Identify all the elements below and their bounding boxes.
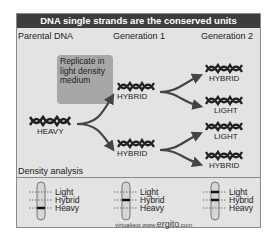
dna-helix-icon <box>206 121 242 132</box>
molecule-label: HYBRID <box>209 74 239 83</box>
molecule-label: HYBRID <box>117 92 147 101</box>
molecule-label: HEAVY <box>37 127 64 136</box>
diagram-frame: DNA single strands are the conserved uni… <box>16 13 261 228</box>
dna-helix-icon <box>118 138 154 149</box>
density-analysis-title: Density analysis <box>18 166 83 176</box>
dna-helix-icon <box>206 150 242 161</box>
density-label: Heavy <box>55 204 79 213</box>
centrifuge-tube-icon <box>201 182 231 222</box>
dna-helix-icon <box>30 115 70 127</box>
dna-helix-icon <box>206 63 242 74</box>
molecule-label: LIGHT <box>214 132 238 141</box>
divider <box>17 177 260 178</box>
density-label: Heavy <box>140 204 164 213</box>
dna-helix-icon <box>118 81 154 92</box>
centrifuge-tube-icon <box>112 182 142 222</box>
credit-text: virtualtext www.ergito.com <box>115 219 192 229</box>
centrifuge-tube-icon <box>27 182 57 222</box>
molecule-label: HYBRID <box>209 161 239 170</box>
density-label: Heavy <box>229 204 253 213</box>
molecule-label: LIGHT <box>214 106 238 115</box>
molecule-label: HYBRID <box>117 149 147 158</box>
dna-helix-icon <box>206 95 242 106</box>
